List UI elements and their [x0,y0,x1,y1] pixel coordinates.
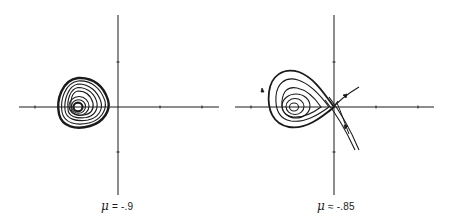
phase-plot-right [225,0,450,223]
parameter-value: -.85 [337,201,355,212]
parameter-label-left: μ = -.9 [101,199,133,213]
parameter-value: -.9 [121,201,133,212]
parameter-label-right: μ ≈ -.85 [317,199,355,213]
phase-portrait-right: μ ≈ -.85 [225,0,450,223]
mu-symbol: μ [101,199,109,213]
phase-portrait-left: μ = -.9 [0,0,225,223]
phase-plot-left [0,0,225,223]
relation-symbol: ≈ [328,201,334,212]
axes-left [19,15,219,195]
mu-symbol: μ [317,199,325,213]
orbits-right [261,71,359,150]
relation-symbol: = [112,201,118,212]
orbits-left [58,78,108,128]
